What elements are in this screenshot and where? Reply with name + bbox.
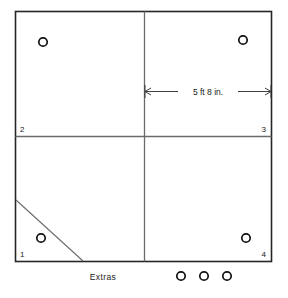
extras-hole-1: [177, 272, 185, 280]
corner-label-1: 1: [20, 250, 25, 259]
hole-bottom-right: [242, 234, 250, 242]
hole-bottom-left: [37, 234, 45, 242]
extras-hole-3: [223, 272, 231, 280]
extras-label: Extras: [90, 272, 117, 282]
corner-label-3: 3: [262, 125, 267, 134]
extras-hole-2: [200, 272, 208, 280]
corner-label-2: 2: [20, 125, 25, 134]
diagonal-cut-line: [16, 200, 83, 261]
panel-layout-diagram: 5 ft 8 in. 2 3 1 4 Extras: [0, 0, 288, 298]
dimension-label: 5 ft 8 in.: [193, 87, 223, 97]
hole-top-left: [39, 38, 47, 46]
diagram-canvas: 5 ft 8 in. 2 3 1 4 Extras: [0, 0, 288, 298]
hole-top-right: [239, 36, 247, 44]
corner-label-4: 4: [262, 250, 267, 259]
